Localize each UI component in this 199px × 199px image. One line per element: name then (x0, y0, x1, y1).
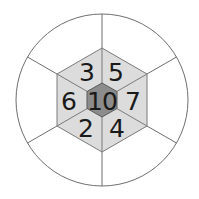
center-value: 10 (87, 87, 117, 116)
segment-top-right: 5 (108, 58, 124, 87)
segment-bottom-left: 2 (78, 114, 94, 143)
segment-top-left: 3 (79, 58, 95, 87)
diagram-root: 3 5 7 4 2 6 10 (0, 0, 199, 199)
hex-circle-diagram: 3 5 7 4 2 6 10 (0, 0, 199, 199)
segment-bottom-right: 4 (109, 114, 125, 143)
segment-right: 7 (125, 87, 141, 116)
segment-left: 6 (61, 87, 77, 116)
